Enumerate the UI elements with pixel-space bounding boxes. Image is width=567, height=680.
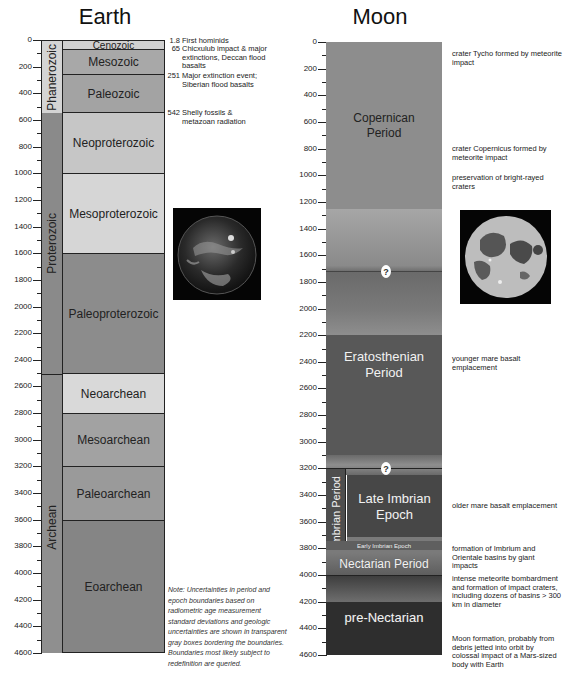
axis-tick-label: 3800	[2, 541, 32, 550]
axis-tick-label: 0	[2, 35, 32, 44]
axis-tick-label: 2000	[287, 304, 317, 313]
axis-tick-label: 1600	[287, 250, 317, 259]
axis-tick-label: 3000	[2, 435, 32, 444]
earth-era-column: Cenozoic Mesozoic Paleozoic Neoproterozo…	[62, 40, 165, 653]
period-eratosthenian: Eratosthenian Period	[326, 335, 442, 455]
axis-tick-label: 3800	[287, 543, 317, 552]
moon-event-text: intense meteorite bombardment and format…	[452, 575, 564, 609]
axis-tick-label: 1800	[287, 277, 317, 286]
axis-tick-label: 4000	[287, 570, 317, 579]
axis-tick-label: 3000	[287, 437, 317, 446]
era-mesoarchean: Mesoarchean	[63, 414, 164, 467]
period-nectarian: Nectarian Period	[326, 553, 442, 575]
event-text: Chicxulub impact & major extinctions, De…	[182, 45, 277, 71]
axis-tick-label: 1000	[287, 170, 317, 179]
axis-tick-label: 1000	[2, 168, 32, 177]
axis-tick-label: 4600	[287, 650, 317, 659]
eon-archean: Archean	[42, 375, 62, 653]
axis-tick-label: 1200	[287, 197, 317, 206]
moon-event-text: crater Copernicus formed by meteorite im…	[452, 145, 562, 162]
event-text: Shelly fossils & metazoan radiation	[182, 109, 262, 126]
era-paleoarchean: Paleoarchean	[63, 467, 164, 521]
axis-tick-label: 3200	[2, 461, 32, 470]
axis-major-tick	[318, 655, 327, 656]
moon-title: Moon	[330, 4, 430, 30]
axis-tick-label: 3400	[2, 488, 32, 497]
epoch-late-imbrian: Late Imbrian Epoch	[347, 475, 442, 539]
axis-tick-label: 2800	[2, 408, 32, 417]
axis-tick-label: 1400	[2, 222, 32, 231]
axis-tick-label: 3200	[287, 463, 317, 472]
event-age: 542	[166, 109, 180, 118]
eon-proterozoic: Proterozoic	[42, 113, 62, 374]
axis-tick-label: 4200	[2, 595, 32, 604]
moon-event-text: formation of Imbrium and Orientale basin…	[452, 545, 562, 571]
eon-phanerozoic: Phanerozoic	[42, 41, 62, 113]
era-paleoproterozoic: Paleoproterozoic	[63, 254, 164, 374]
axis-tick-label: 2400	[287, 357, 317, 366]
axis-tick-label: 800	[2, 142, 32, 151]
moon-event-text: older mare basalt emplacement	[452, 502, 562, 511]
full-moon-image	[460, 210, 551, 304]
earth-eon-column: Phanerozoic Proterozoic Archean	[41, 40, 63, 653]
era-cenozoic: Cenozoic	[63, 41, 164, 50]
axis-tick-label: 2000	[2, 302, 32, 311]
axis-tick-label: 4400	[287, 623, 317, 632]
era-eoarchean: Eoarchean	[63, 521, 164, 652]
axis-tick-label: 800	[287, 144, 317, 153]
axis-tick-label: 2800	[287, 410, 317, 419]
axis-tick-label: 2200	[2, 328, 32, 337]
axis-tick-label: 4400	[2, 621, 32, 630]
axis-tick-label: 400	[2, 88, 32, 97]
axis-tick-label: 1400	[287, 224, 317, 233]
axis-tick-label: 400	[287, 90, 317, 99]
axis-tick-label: 1600	[2, 248, 32, 257]
axis-major-tick	[33, 653, 42, 654]
era-mesozoic: Mesozoic	[63, 50, 164, 75]
axis-tick-label: 4600	[2, 648, 32, 657]
moon-event-text: younger mare basalt emplacement	[452, 355, 562, 372]
axis-tick-label: 200	[287, 64, 317, 73]
event-age: 251	[166, 72, 180, 81]
moon-event-text: Moon formation, probably from debris jet…	[452, 635, 562, 669]
earth-title: Earth	[40, 4, 170, 30]
axis-tick-label: 0	[287, 37, 317, 46]
axis-tick-label: 3600	[287, 517, 317, 526]
axis-tick-label: 2600	[2, 381, 32, 390]
axis-tick-label: 3600	[2, 515, 32, 524]
period-pre-nectarian: pre-Nectarian	[326, 602, 442, 655]
uncertainty-note: Note: Uncertainties in period and epoch …	[168, 585, 290, 669]
era-neoproterozoic: Neoproterozoic	[63, 113, 164, 174]
moon-column: Copernican Period ? Eratosthenian Period…	[326, 42, 442, 655]
axis-tick-label: 600	[287, 117, 317, 126]
axis-tick-label: 4000	[2, 568, 32, 577]
axis-tick-label: 3400	[287, 490, 317, 499]
question-mark-icon: ?	[381, 265, 391, 278]
axis-tick-label: 200	[2, 62, 32, 71]
uncertainty-band-5	[326, 576, 442, 602]
axis-tick-label: 600	[2, 115, 32, 124]
earth-globe-image	[173, 208, 261, 300]
era-mesoproterozoic: Mesoproterozoic	[63, 174, 164, 254]
moon-event-text: preservation of bright-rayed craters	[452, 174, 562, 191]
question-mark-icon: ?	[381, 462, 391, 475]
moon-event-text: crater Tycho formed by meteorite impact	[452, 50, 562, 67]
axis-tick-label: 2400	[2, 355, 32, 364]
full-moon-icon	[460, 210, 551, 304]
axis-tick-label: 2600	[287, 383, 317, 392]
axis-tick-label: 4200	[287, 597, 317, 606]
earth-globe-icon	[173, 208, 261, 300]
event-text: Major extinction event; Siberian flood b…	[182, 72, 277, 89]
era-paleozoic: Paleozoic	[63, 75, 164, 113]
era-neoarchean: Neoarchean	[63, 374, 164, 414]
epoch-early-imbrian: Early Imbrian Epoch	[326, 541, 442, 550]
period-copernican: Copernican Period	[326, 42, 442, 209]
axis-tick-label: 1200	[2, 195, 32, 204]
axis-tick-label: 2200	[287, 330, 317, 339]
axis-tick-label: 1800	[2, 275, 32, 284]
event-age: 65	[166, 45, 180, 54]
